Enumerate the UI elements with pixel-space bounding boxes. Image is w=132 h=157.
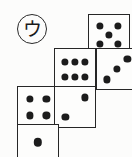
die-pip <box>97 40 104 47</box>
die-pip <box>81 59 88 66</box>
die-pip <box>61 73 68 80</box>
die-pip <box>105 31 112 38</box>
die-pip <box>43 112 50 119</box>
three-face <box>96 48 132 90</box>
die-pip <box>113 65 120 72</box>
die-pip <box>62 113 69 120</box>
one-face <box>17 124 59 157</box>
die-pip <box>71 73 78 80</box>
figure-label-circled-katakana: ウ <box>17 14 47 44</box>
die-pip <box>114 40 121 47</box>
dice-net-figure: ウ <box>0 0 132 157</box>
die-pip <box>43 95 50 102</box>
die-pip <box>114 23 121 30</box>
die-pip <box>103 76 110 83</box>
die-pip <box>34 138 42 146</box>
die-pip <box>71 59 78 66</box>
die-pip <box>26 95 33 102</box>
die-pip <box>81 94 88 101</box>
die-pip <box>81 73 88 80</box>
four-face <box>17 86 59 128</box>
six-face <box>54 48 96 90</box>
die-pip <box>61 59 68 66</box>
die-pip <box>26 112 33 119</box>
die-pip <box>124 55 131 62</box>
die-pip <box>97 23 104 30</box>
two-face <box>54 86 96 128</box>
